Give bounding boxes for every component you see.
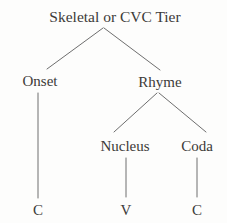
tree-canvas: Skeletal or CVC Tier Onset Rhyme Nucleus…	[0, 0, 227, 223]
node-label-root: Skeletal or CVC Tier	[49, 8, 181, 25]
edge-rhyme-coda	[159, 93, 206, 132]
node-label-onset-segment: C	[33, 202, 43, 218]
node-label-coda: Coda	[181, 138, 213, 154]
edge-root-onset	[47, 28, 103, 69]
node-label-onset: Onset	[23, 73, 59, 89]
edge-root-rhyme	[104, 28, 160, 70]
node-label-nucleus-segment: V	[121, 202, 132, 218]
edge-rhyme-nucleus	[114, 93, 157, 132]
node-label-rhyme: Rhyme	[138, 74, 182, 90]
node-label-coda-segment: C	[192, 202, 202, 218]
node-label-nucleus: Nucleus	[100, 138, 149, 154]
syllable-tree-diagram: Skeletal or CVC Tier Onset Rhyme Nucleus…	[0, 0, 227, 223]
